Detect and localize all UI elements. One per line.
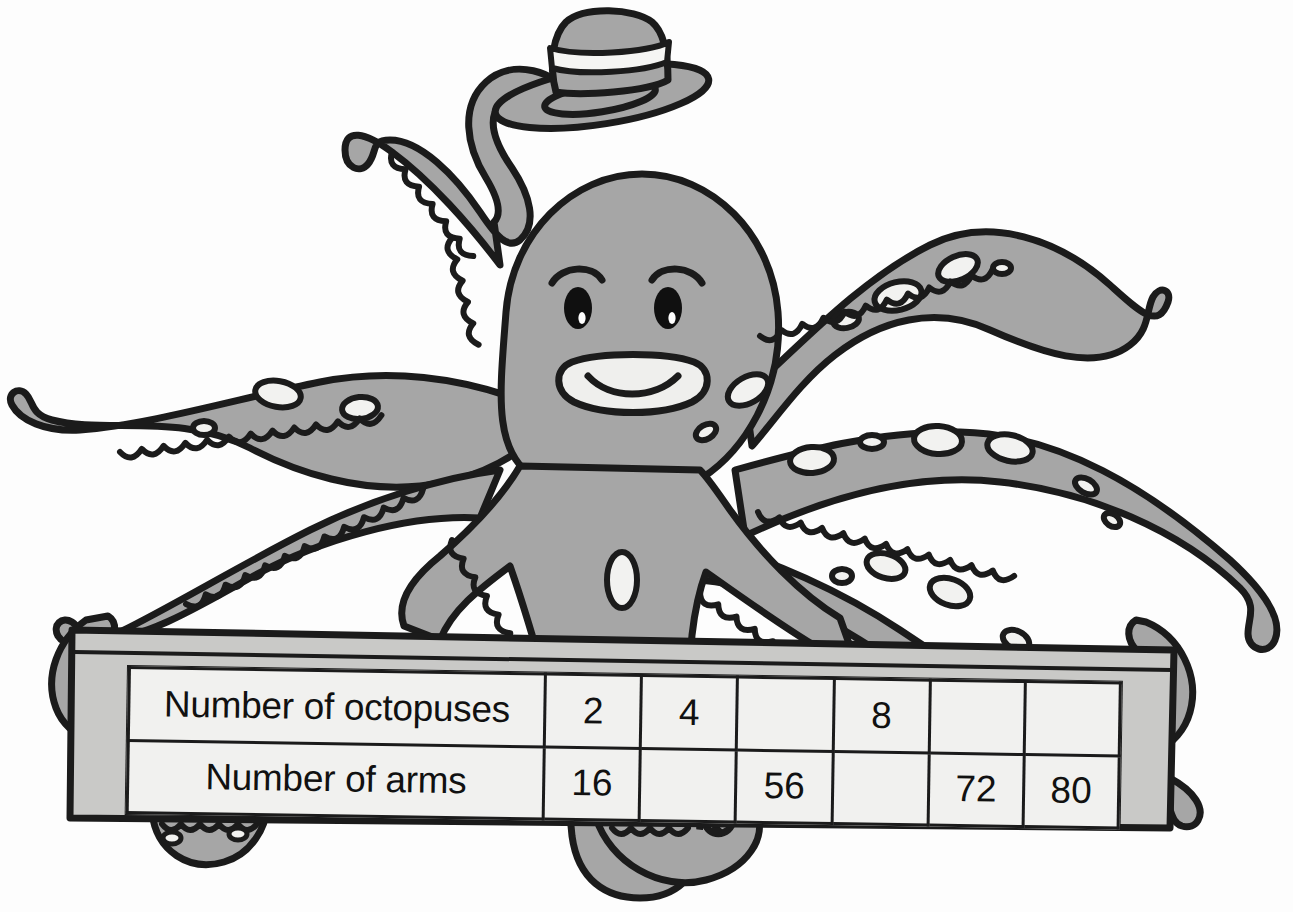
- cell-arms-3[interactable]: 56: [736, 750, 833, 824]
- cell-octopuses-2[interactable]: 4: [641, 676, 738, 750]
- mouth-icon: [559, 355, 708, 413]
- row-label-arms: Number of arms: [127, 740, 544, 819]
- cell-arms-1[interactable]: 16: [543, 747, 640, 821]
- eye-left-icon: [564, 287, 592, 329]
- cell-arms-2[interactable]: [639, 748, 736, 822]
- table-row-arms: Number of arms 16 56 72 80: [127, 740, 1119, 828]
- eye-highlight-right-icon: [668, 312, 675, 324]
- cell-octopuses-4[interactable]: 8: [833, 679, 930, 753]
- cell-octopuses-3[interactable]: [737, 677, 834, 751]
- eye-highlight-left-icon: [578, 312, 585, 324]
- worksheet-page: Number of octopuses 2 4 8 Number of arms…: [0, 0, 1293, 912]
- cell-arms-4[interactable]: [832, 751, 929, 825]
- eye-right-icon: [654, 287, 682, 329]
- row-label-octopuses: Number of octopuses: [128, 668, 545, 747]
- cell-octopuses-1[interactable]: 2: [545, 674, 642, 748]
- cell-octopuses-6[interactable]: [1024, 682, 1120, 756]
- octopus-arms-table[interactable]: Number of octopuses 2 4 8 Number of arms…: [126, 666, 1122, 830]
- cell-octopuses-5[interactable]: [929, 680, 1025, 754]
- cell-arms-5[interactable]: 72: [928, 753, 1024, 827]
- cell-arms-6[interactable]: 80: [1023, 754, 1119, 828]
- data-table-wrap[interactable]: Number of octopuses 2 4 8 Number of arms…: [126, 666, 1122, 830]
- octopus-head: [501, 174, 778, 512]
